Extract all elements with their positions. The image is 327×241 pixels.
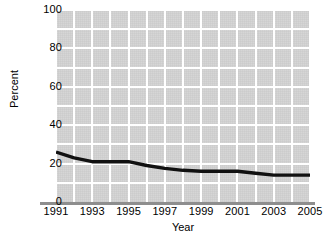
y-tick-label: 100: [43, 3, 62, 15]
plot-area: [56, 10, 310, 202]
x-axis-title: Year: [56, 221, 310, 233]
y-axis-title: Percent: [8, 59, 20, 119]
x-tick-label: 1995: [109, 205, 149, 217]
x-tick-label: 1991: [36, 205, 76, 217]
y-tick-label: 80: [50, 41, 62, 53]
x-tick-label: 2001: [217, 205, 257, 217]
x-tick-label: 2003: [254, 205, 294, 217]
series-line-percent: [56, 10, 310, 202]
y-tick-label: 20: [50, 157, 62, 169]
x-tick-label: 1997: [145, 205, 185, 217]
x-tick-label: 2005: [290, 205, 327, 217]
y-tick-label: 40: [50, 118, 62, 130]
x-tick-label: 1993: [72, 205, 112, 217]
data-line: [56, 152, 310, 175]
x-tick-label: 1999: [181, 205, 221, 217]
y-tick-label: 60: [50, 80, 62, 92]
